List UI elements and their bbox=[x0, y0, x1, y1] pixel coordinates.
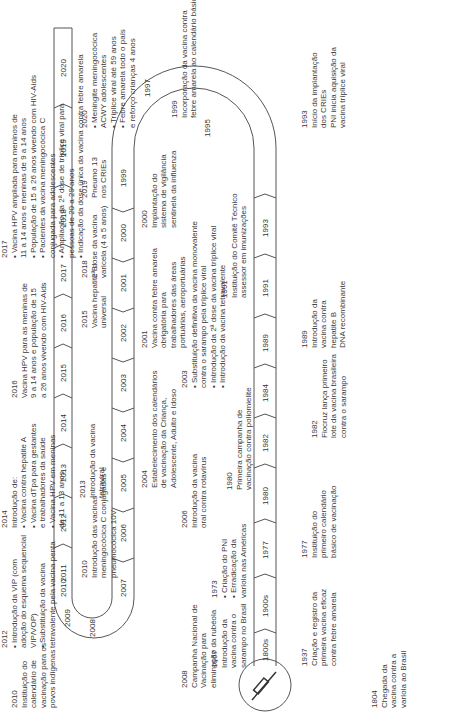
event-2010-indigenous: 2010Instituição docalendário devacinação… bbox=[10, 643, 58, 708]
event-2012: 2012• Introdução da VIP (comadoção do es… bbox=[0, 535, 57, 648]
svg-text:1997: 1997 bbox=[143, 79, 152, 97]
svg-text:1989: 1989 bbox=[261, 334, 270, 352]
event-2003: 2003• Substituição definitiva da vacina … bbox=[180, 221, 228, 388]
event-2020: 2020• Meningite meningocócicaACWY adoles… bbox=[80, 29, 137, 128]
svg-text:1980: 1980 bbox=[261, 487, 270, 505]
event-1999: 1999Incorporação da vacina contrafebre a… bbox=[170, 0, 199, 118]
event-2014: 2014Introdução de:• Vacina contra hepati… bbox=[0, 424, 67, 529]
svg-text:2008: 2008 bbox=[88, 619, 97, 637]
event-1989: 1989Introdução davacina contrahepatite B… bbox=[300, 281, 348, 348]
svg-text:2016: 2016 bbox=[59, 314, 68, 332]
event-1982: 1982Fiocruz lança primeirolote da vacina… bbox=[310, 354, 348, 438]
svg-text:1900s: 1900s bbox=[261, 595, 270, 617]
svg-text:1977: 1977 bbox=[261, 541, 270, 559]
svg-text:2005: 2005 bbox=[119, 474, 128, 492]
svg-text:2004: 2004 bbox=[119, 424, 128, 442]
event-2008: 2008Campanha Nacional deVacinação parael… bbox=[180, 604, 218, 688]
event-2000: 2000Implantação dosistema de vigilâncias… bbox=[140, 151, 178, 228]
svg-text:1800s: 1800s bbox=[261, 639, 270, 661]
svg-text:2003: 2003 bbox=[119, 374, 128, 392]
event-1993: 1993Início da implantaçãodos CRIEsPNI in… bbox=[300, 47, 348, 128]
svg-text:2006: 2006 bbox=[119, 524, 128, 542]
event-2017: 2017• Vacina HPV ampliada para meninos d… bbox=[0, 54, 86, 258]
svg-text:1991: 1991 bbox=[261, 279, 270, 297]
event-1977: 1977Instituição doprimeiro calendáriobás… bbox=[300, 486, 338, 559]
event-1804: 1804Chegada davacina contra avaríola ao … bbox=[370, 651, 408, 708]
svg-text:2002: 2002 bbox=[119, 324, 128, 342]
syringe-icon bbox=[252, 672, 276, 700]
svg-text:1982: 1982 bbox=[261, 434, 270, 452]
event-2013: 2013Introdução da vacinatetraviral bbox=[78, 424, 107, 498]
svg-text:2015: 2015 bbox=[59, 364, 68, 382]
svg-text:2009: 2009 bbox=[63, 609, 72, 627]
svg-text:2001: 2001 bbox=[119, 274, 128, 292]
svg-text:2017: 2017 bbox=[59, 264, 68, 282]
svg-text:1995: 1995 bbox=[203, 119, 212, 137]
event-1937: 1937Criação e registro daprimeira vacina… bbox=[300, 589, 338, 666]
svg-text:1993: 1993 bbox=[261, 219, 270, 237]
svg-text:2000: 2000 bbox=[119, 224, 128, 242]
svg-text:2007: 2007 bbox=[119, 579, 128, 597]
event-2018: 20182ª dose da vacinavaricela (4 a 5 ano… bbox=[80, 206, 109, 278]
svg-text:1984: 1984 bbox=[261, 384, 270, 402]
event-2016: 2016Vacina HPV para as meninas de9 a 14 … bbox=[10, 282, 48, 398]
event-2006: 2006Introdução da vacinaoral contra rota… bbox=[180, 454, 209, 528]
svg-text:2011: 2011 bbox=[59, 564, 68, 582]
event-2004: 2004Estabelecimento dos calendáriosde va… bbox=[140, 371, 178, 488]
event-1973: 1973• Criação do PNI• Erradicação davarí… bbox=[210, 524, 248, 598]
vaccination-timeline-diagram: 1800s1900s1977 198019821984 198919911993… bbox=[0, 0, 456, 728]
svg-text:1999: 1999 bbox=[119, 169, 128, 187]
event-1980: 1980Primeira campanha devacinação contra… bbox=[225, 387, 254, 490]
event-2019: 2019Pneumo 13nos CRIEs bbox=[80, 157, 109, 198]
